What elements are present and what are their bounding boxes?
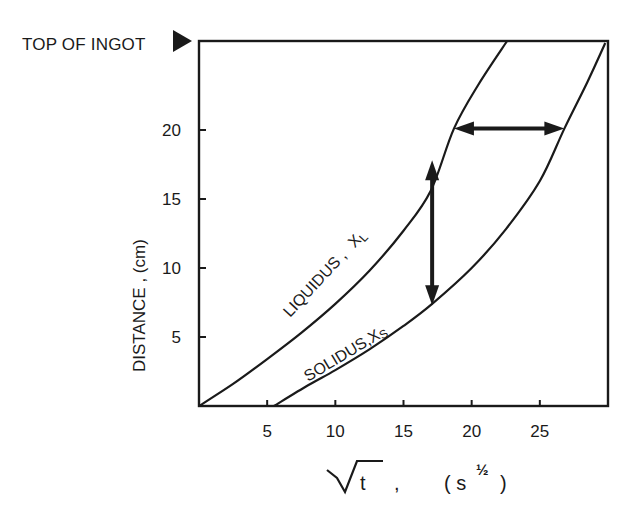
x-axis-unit-open: ( s [444, 472, 466, 494]
svg-text:SOLIDUS,XS: SOLIDUS,XS [301, 322, 391, 386]
y-tick-label: 5 [172, 328, 181, 347]
x-tick-label: 5 [262, 422, 271, 441]
arrowhead-icon [425, 160, 439, 180]
top-of-ingot-label: TOP OF INGOT [22, 35, 146, 54]
x-tick-label: 10 [326, 422, 345, 441]
solidus-label-text: SOLIDUS, [301, 332, 374, 385]
y-tick-label: 10 [162, 259, 181, 278]
x-axis-var: t [360, 472, 366, 494]
x-axis-comma: , [394, 472, 400, 494]
vertical-double-arrow [425, 160, 439, 305]
sqrt-symbol-icon [327, 461, 383, 492]
x-axis-unit-close: ) [500, 472, 507, 494]
x-axis-label: t , ( s ½ ) [327, 461, 507, 494]
y-tick-label: 15 [162, 190, 181, 209]
solidus-curve [274, 43, 605, 406]
liquidus-label: LIQUIDUS , XL [280, 226, 371, 322]
x-tick-label: 20 [462, 422, 481, 441]
x-tick-label: 15 [394, 422, 413, 441]
x-axis-unit-exp: ½ [476, 461, 489, 478]
y-axis-label: DISTANCE , (cm) [130, 239, 149, 372]
arrowhead-icon [425, 285, 439, 305]
curves [199, 41, 605, 406]
solidus-label: SOLIDUS,XS [301, 322, 391, 386]
y-tick-label: 20 [162, 121, 181, 140]
plot-frame [199, 41, 608, 406]
horizontal-double-arrow [454, 122, 564, 136]
chart-svg: 510152025 5101520 TOP OF INGOT DISTANCE … [0, 0, 625, 513]
liquidus-label-text: LIQUIDUS , [280, 247, 350, 320]
svg-text:LIQUIDUS , XL: LIQUIDUS , XL [280, 226, 371, 322]
x-tick-label: 25 [530, 422, 549, 441]
top-of-ingot-arrow-icon [173, 30, 192, 52]
